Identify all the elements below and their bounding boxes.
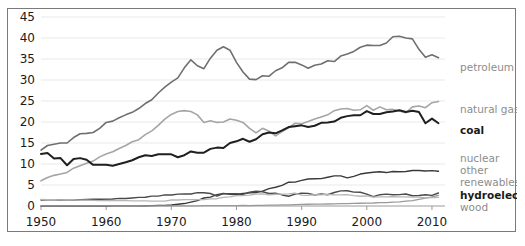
y-axis-tick-40: 40 (20, 31, 35, 45)
y-axis-tick-15: 15 (20, 136, 35, 150)
x-axis-tick-2010: 2010 (417, 215, 448, 229)
series-label-petroleum: petroleum (460, 61, 514, 73)
y-axis-tick-0: 0 (27, 199, 35, 213)
series-line-petroleum (41, 36, 438, 150)
energy-consumption-line-chart: 0510152025303540451950196019701980199020… (8, 9, 517, 233)
x-axis-tick-1950: 1950 (26, 215, 57, 229)
y-axis-tick-25: 25 (20, 94, 35, 108)
y-axis-tick-35: 35 (20, 52, 35, 66)
y-axis-tick-30: 30 (20, 73, 35, 87)
chart-frame: 0510152025303540451950196019701980199020… (7, 8, 516, 232)
y-axis-tick-45: 45 (20, 10, 35, 24)
x-axis-tick-1990: 1990 (286, 215, 317, 229)
series-label-renewables: renewables (460, 176, 517, 188)
y-axis-tick-10: 10 (20, 157, 35, 171)
y-axis-tick-20: 20 (20, 115, 35, 129)
y-axis-tick-5: 5 (27, 178, 35, 192)
series-label-nuclear: nuclear (460, 152, 500, 164)
series-label-hydroelectric: hydroelectric (460, 189, 517, 201)
series-label-wood: wood (460, 201, 488, 213)
x-axis-tick-1980: 1980 (221, 215, 252, 229)
series-label-natural-gas: natural gas (460, 103, 517, 115)
x-axis-tick-2000: 2000 (352, 215, 383, 229)
series-line-coal (41, 110, 438, 165)
x-axis-tick-1970: 1970 (156, 215, 187, 229)
series-label-coal: coal (460, 124, 484, 136)
x-axis-tick-1960: 1960 (91, 215, 122, 229)
series-label-other: other (460, 164, 489, 176)
